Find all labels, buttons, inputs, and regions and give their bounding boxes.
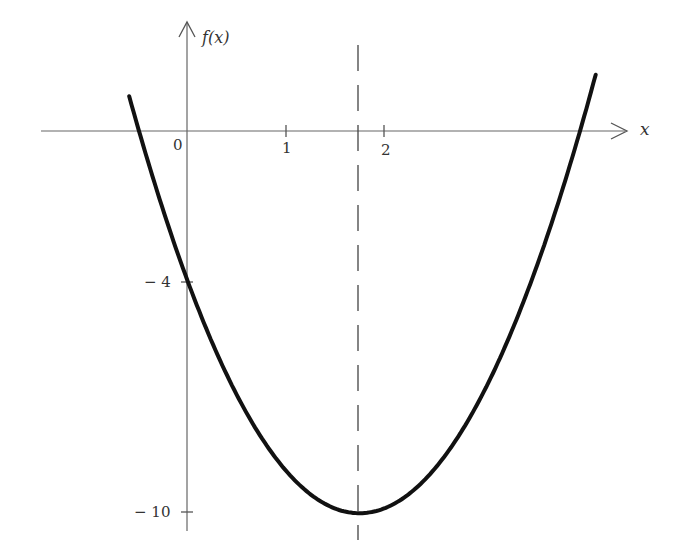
parabola-curve (129, 75, 596, 514)
x-tick-label-2: 2 (381, 143, 391, 158)
origin-label: 0 (173, 138, 183, 153)
y-tick-label-neg10: − 10 (134, 505, 170, 520)
x-axis-label: x (640, 121, 650, 138)
y-axis-label: f(x) (202, 30, 229, 46)
x-tick-label-1: 1 (282, 141, 292, 156)
parabola-plot (0, 0, 686, 560)
y-tick-label-neg4: − 4 (144, 275, 171, 290)
